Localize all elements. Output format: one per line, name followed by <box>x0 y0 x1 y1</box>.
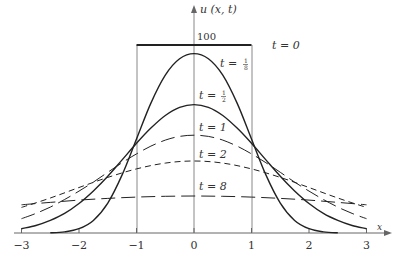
x-tick-label: −2 <box>71 239 87 252</box>
x-tick-label: 2 <box>306 239 313 252</box>
label-t2: t = 2 <box>199 148 227 161</box>
label-t1-8: t = 1 8 <box>220 57 248 71</box>
x-tick-label: 3 <box>363 239 370 252</box>
y-tick-100-label: 100 <box>197 31 216 42</box>
x-tick-label: −1 <box>128 239 144 252</box>
label-t1-2: t = 1 2 <box>199 89 226 103</box>
label-t1-8-den: 8 <box>244 64 248 71</box>
label-t0: t = 0 <box>272 39 300 52</box>
x-tick-label: 1 <box>248 239 255 252</box>
y-axis-arrow-icon <box>191 5 197 13</box>
x-tick-label: −3 <box>13 239 29 252</box>
label-t1-2-num: 1 <box>222 89 226 96</box>
label-t1-8-num: 1 <box>244 57 248 64</box>
x-axis-label: x <box>377 222 382 232</box>
label-t1-2-prefix: t = <box>199 89 216 102</box>
x-axis-arrow-icon <box>384 230 392 236</box>
x-tick-label: 0 <box>191 239 198 252</box>
label-t1-2-den: 2 <box>222 96 226 103</box>
label-t8: t = 8 <box>199 180 227 193</box>
label-t1-8-prefix: t = <box>220 57 237 70</box>
label-t1: t = 1 <box>199 121 227 134</box>
y-axis-label: u (x, t) <box>200 3 237 16</box>
heat-equation-chart: −3−2−10123 u (x, t) x 100 t = 0 t = 1 8 … <box>0 0 403 255</box>
